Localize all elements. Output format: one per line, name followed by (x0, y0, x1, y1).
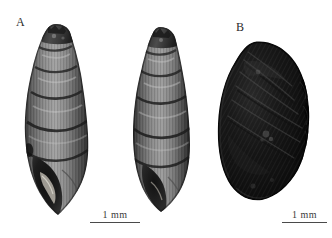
figure-plate: A B (0, 0, 332, 238)
panel-label-b: B (236, 21, 244, 33)
scalebar-a-line (90, 222, 140, 223)
specimen-a-right (124, 25, 204, 213)
shell-body-b (214, 38, 314, 204)
scalebar-a: 1 mm (90, 209, 140, 223)
scalebar-b: 1 mm (282, 209, 327, 223)
scalebar-b-line (282, 222, 327, 223)
specimen-a-left (18, 22, 102, 218)
scalebar-b-label: 1 mm (282, 209, 327, 220)
specimen-b (214, 38, 314, 204)
shell-body-a1 (18, 22, 102, 218)
shell-body-a2 (124, 25, 204, 213)
scalebar-a-label: 1 mm (90, 209, 140, 220)
